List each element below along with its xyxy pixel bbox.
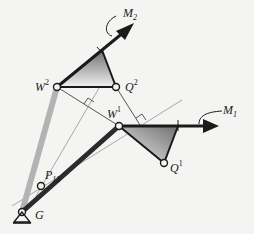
label-g: G — [35, 209, 44, 221]
joint-q2 — [113, 84, 120, 91]
moment-arrow-icon — [106, 16, 116, 36]
joint-w2 — [54, 84, 61, 91]
pole-p12 — [38, 183, 45, 190]
label-w2: W2 — [35, 80, 49, 93]
diagram-svg — [0, 0, 254, 234]
label-m2: M2 — [123, 7, 137, 22]
label-w1: W1 — [107, 107, 121, 120]
linkage-diagram: M2 M1 W2 Q2 W1 Q1 P12 G — [0, 0, 254, 234]
label-p12: P12 — [45, 169, 60, 184]
label-q1: Q1 — [170, 161, 183, 174]
coupler-triangle-1 — [119, 126, 178, 163]
ground-pivot-icon — [13, 209, 31, 224]
label-m1: M1 — [223, 104, 237, 119]
joint-w1 — [116, 123, 123, 130]
label-q2: Q2 — [125, 80, 138, 93]
moment-arrow-icon — [199, 111, 222, 124]
joint-q1 — [161, 160, 168, 167]
